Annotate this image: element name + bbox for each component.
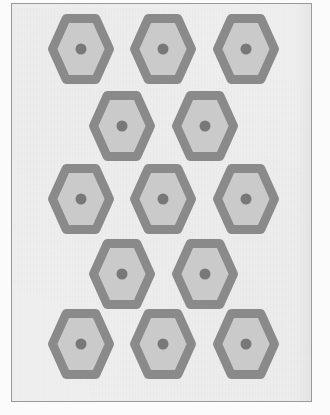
screenshot-root xyxy=(0,0,330,415)
hexagon-center-dot xyxy=(200,121,211,132)
hexagon-center-dot xyxy=(158,44,169,55)
hexagon-center-dot xyxy=(241,44,252,55)
hexagon-center-dot xyxy=(200,269,211,280)
hexagon-center-dot xyxy=(241,194,252,205)
pattern-panel xyxy=(11,3,312,402)
hexagon-center-dot xyxy=(158,194,169,205)
hexagon-center-dot xyxy=(117,269,128,280)
hexagon-lattice xyxy=(12,4,311,401)
hexagon-center-dot xyxy=(158,339,169,350)
hexagon-center-dot xyxy=(117,121,128,132)
hexagon-center-dot xyxy=(241,339,252,350)
hexagon-center-dot xyxy=(76,194,87,205)
hexagon-center-dot xyxy=(76,44,87,55)
hexagon-center-dot xyxy=(76,339,87,350)
